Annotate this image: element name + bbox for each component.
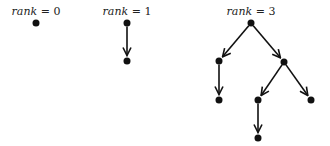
tree-node [281,59,288,66]
tree-node [255,97,262,104]
rank-label: rank = 0 [12,5,61,18]
tree-node [308,97,315,104]
rank-label: rank = 1 [103,5,152,18]
tree-rank1: rank = 1 [103,5,152,65]
tree-node [124,58,131,65]
edge-arrow [261,65,282,96]
tree-node [248,20,255,27]
edge-arrow [286,65,308,96]
tree-node [255,135,262,142]
tree-node [124,20,131,27]
rank-label: rank = 3 [227,5,276,18]
tree-rank3: rank = 3 [216,5,315,142]
edge-arrow [223,26,249,57]
tree-node [33,20,40,27]
tree-node [216,97,223,104]
tree-node [216,58,223,65]
edge-arrow [253,26,280,58]
tree-rank0: rank = 0 [12,5,61,27]
binomial-trees-diagram: rank = 0rank = 1rank = 3 [0,0,330,146]
